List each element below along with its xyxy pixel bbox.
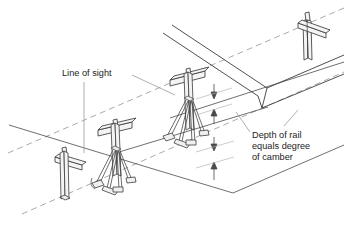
stand2-foot-left — [92, 180, 104, 188]
stand2-foot-center — [113, 187, 123, 192]
stand2-leg-a-outer — [95, 150, 113, 185]
far-right-short-stand — [298, 12, 330, 60]
lower-dim-witness-a — [196, 141, 234, 152]
stand2-foot-right — [126, 177, 136, 183]
rail-end-face-edge — [262, 88, 267, 108]
stand1-post-face-right — [64, 151, 69, 199]
rail-bottom-near-edge — [258, 96, 262, 108]
stand3-foot-left — [163, 133, 175, 141]
depth-of-rail-label-line1: Depth of rail — [252, 130, 302, 140]
sight-lines-group — [8, 8, 344, 214]
diagram-canvas: Line of sight Depth of rail equals degre… — [0, 0, 345, 227]
ground-line-left-lower — [150, 168, 233, 193]
line-of-sight-leader-diagonal — [132, 75, 175, 95]
stand3-foot-center — [186, 140, 196, 145]
depth-of-rail-label-line3: of camber — [252, 152, 293, 162]
stand4-top-knob — [305, 12, 310, 21]
stand3-foot-right — [199, 130, 209, 136]
near-left-short-stand — [55, 147, 86, 200]
line-of-sight-label: Line of sight — [62, 68, 112, 78]
stand2-leg-c-inner — [120, 151, 132, 180]
rail-lower-edge-right — [262, 74, 344, 108]
rail-top-near-edge — [163, 33, 258, 96]
depth-of-rail-label-line2: equals degree — [252, 141, 310, 151]
rail-far-edge-right — [267, 55, 344, 88]
depth-of-rail-leader-left — [236, 112, 250, 132]
technical-diagram-figure: Line of sight Depth of rail equals degre… — [0, 0, 345, 227]
depth-of-rail-leader-right — [284, 110, 298, 126]
center-left-trestle-stand — [91, 118, 136, 195]
lower-camber-dimension — [196, 137, 234, 180]
